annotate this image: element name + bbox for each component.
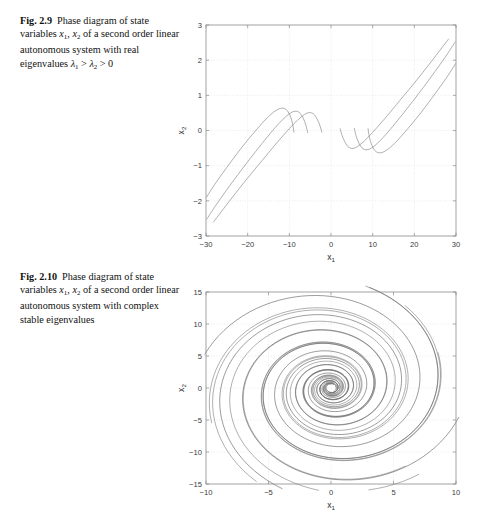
x-tick-label: 0: [329, 240, 333, 249]
figure-2-9-number: Fig. 2.9: [20, 15, 52, 26]
figure-2-9: Fig. 2.9Phase diagram of state variables…: [0, 0, 478, 262]
y-axis-label: x2: [176, 384, 187, 392]
caption-line1: Phase diagram of: [62, 271, 133, 282]
figure-2-10-number: Fig. 2.10: [20, 271, 57, 282]
figure-2-10-caption: Fig. 2.10Phase diagram of state variable…: [20, 270, 180, 326]
y-tick-label: −5: [193, 416, 202, 425]
x-tick-label: −10: [200, 488, 213, 497]
y-tick-label: −1: [193, 161, 202, 170]
caption-line1: Phase diagram of: [57, 15, 128, 26]
y-tick-label: −3: [193, 232, 202, 241]
trajectory-curve: [214, 113, 322, 222]
x-axis-label: x1: [327, 252, 335, 262]
caption-line5: eigenvalues λ1 > λ2 > 0: [20, 58, 113, 69]
spiral-trajectory: [230, 321, 396, 490]
x-tick-label: 0: [329, 488, 333, 497]
x-tick-label: −10: [283, 240, 296, 249]
x-tick-label: 10: [452, 488, 460, 497]
spiral-trajectory: [220, 315, 402, 489]
x-tick-label: −5: [264, 488, 273, 497]
spiral-trajectory: [209, 308, 408, 439]
caption-line4: autonomous system with: [20, 300, 121, 311]
phase-plot-stable-focus: −10−50510−15−10−5051015x1x2: [160, 282, 478, 512]
axis-frame: −30−20−100102030−3−2−10123x1x2: [176, 21, 460, 262]
x-axis-label: x1: [327, 500, 335, 511]
trajectory-curve: [207, 111, 308, 219]
y-tick-label: 0: [198, 126, 202, 135]
y-tick-label: 5: [198, 352, 202, 361]
spiral-trajectory: [261, 342, 441, 461]
figure-2-9-caption: Fig. 2.9Phase diagram of state variables…: [20, 14, 180, 73]
figure-2-10: Fig. 2.10Phase diagram of state variable…: [0, 262, 478, 521]
spiral-trajectory: [243, 330, 459, 480]
y-tick-label: 10: [194, 320, 202, 329]
spiral-trajectory: [205, 295, 420, 446]
y-tick-label: 0: [198, 384, 202, 393]
plot-canvas-fig2: −10−50510−15−10−5051015x1x2: [160, 282, 478, 512]
y-tick-label: 15: [194, 288, 202, 297]
phase-plot-unstable-node: −30−20−100102030−3−2−10123x1x2: [160, 8, 478, 262]
y-tick-label: −2: [193, 197, 202, 206]
y-tick-label: 1: [198, 91, 202, 100]
y-tick-label: −10: [189, 448, 202, 457]
x-tick-label: 30: [452, 240, 460, 249]
spiral-trajectory: [262, 306, 441, 460]
y-tick-label: 2: [198, 56, 202, 65]
y-axis-label: x2: [176, 126, 187, 134]
y-tick-label: −15: [189, 480, 202, 489]
x-tick-label: −30: [200, 240, 213, 249]
caption-line4: autonomous system with real: [20, 44, 139, 55]
x-tick-label: 10: [368, 240, 376, 249]
x-tick-label: 5: [391, 488, 395, 497]
x-tick-label: −20: [241, 240, 254, 249]
plot-canvas-fig1: −30−20−100102030−3−2−10123x1x2: [160, 8, 478, 262]
x-tick-label: 20: [410, 240, 418, 249]
y-tick-label: 3: [198, 21, 202, 30]
trajectory-curve: [354, 42, 455, 150]
trajectory-curve: [340, 39, 448, 148]
